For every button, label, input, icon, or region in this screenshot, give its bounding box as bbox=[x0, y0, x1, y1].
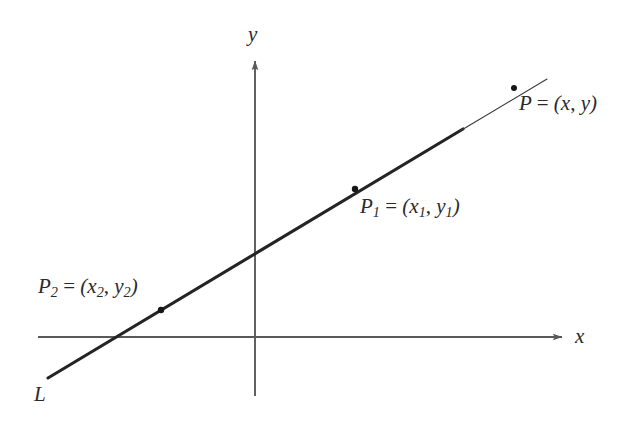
point-marker-P1 bbox=[352, 186, 358, 192]
point-marker-P2 bbox=[158, 307, 164, 313]
point-label-P1: P1 = (x1, y1) bbox=[360, 196, 460, 219]
line-through-two-points-figure: x y L P = (x, y) P1 = (x1, y1) P2 = (x2,… bbox=[0, 0, 638, 428]
x-axis-label: x bbox=[575, 326, 584, 347]
point-label-P2: P2 = (x2, y2) bbox=[38, 276, 138, 299]
line-label-L: L bbox=[34, 384, 46, 405]
point-marker-P bbox=[511, 85, 517, 91]
figure-canvas bbox=[0, 0, 638, 428]
y-axis-label: y bbox=[248, 24, 257, 45]
point-label-P: P = (x, y) bbox=[519, 93, 597, 114]
